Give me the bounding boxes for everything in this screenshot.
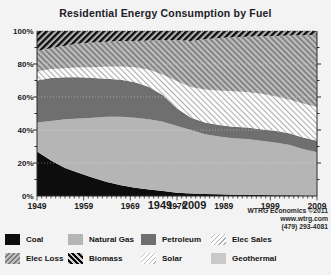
watermark: WTRG Economics ©2011 www.wtrg.com (479) …: [247, 207, 328, 231]
legend-swatch-elec-loss: [5, 253, 20, 264]
legend-swatch-solar: [141, 253, 156, 264]
y-axis-label: 20%: [17, 159, 33, 168]
legend-item-elec-sales: Elec Sales: [211, 233, 327, 245]
legend-label: Biomass: [89, 254, 122, 263]
stacked-area-chart: 0%20%40%60%80%100%1949195919691979198919…: [0, 0, 331, 230]
legend: CoalNatural GasPetroleumElec SalesElec L…: [5, 233, 327, 264]
y-axis-label: 40%: [17, 126, 33, 135]
legend-item-solar: Solar: [141, 252, 211, 264]
legend-label: Natural Gas: [89, 235, 134, 244]
watermark-line-3: (479) 293-4081: [247, 223, 328, 231]
watermark-line-1: WTRG Economics ©2011: [247, 207, 328, 215]
legend-item-biomass: Biomass: [68, 252, 141, 264]
legend-swatch-natural-gas: [68, 234, 83, 245]
legend-item-natural-gas: Natural Gas: [68, 233, 141, 245]
legend-item-elec-loss: Elec Loss: [5, 252, 68, 264]
legend-swatch-geothermal: [211, 253, 226, 264]
watermark-line-2: www.wtrg.com: [247, 215, 328, 223]
legend-swatch-biomass: [68, 253, 83, 264]
legend-label: Geothermal: [232, 254, 276, 263]
chart-areas: [37, 31, 317, 196]
legend-label: Petroleum: [162, 235, 201, 244]
legend-label: Elec Loss: [26, 254, 63, 263]
y-axis-label: 80%: [17, 60, 33, 69]
y-axis-label: 0%: [22, 192, 34, 201]
legend-swatch-coal: [5, 234, 20, 245]
legend-item-coal: Coal: [5, 233, 68, 245]
legend-item-petroleum: Petroleum: [141, 233, 211, 245]
y-axis-label: 100%: [13, 27, 33, 36]
legend-swatch-petroleum: [141, 234, 156, 245]
y-axis-label: 60%: [17, 93, 33, 102]
legend-item-geothermal: Geothermal: [211, 252, 327, 264]
legend-label: Solar: [162, 254, 182, 263]
legend-label: Coal: [26, 235, 43, 244]
legend-swatch-elec-sales: [211, 234, 226, 245]
legend-label: Elec Sales: [232, 235, 272, 244]
chart-figure: Residential Energy Consumption by Fuel 0…: [0, 0, 331, 275]
